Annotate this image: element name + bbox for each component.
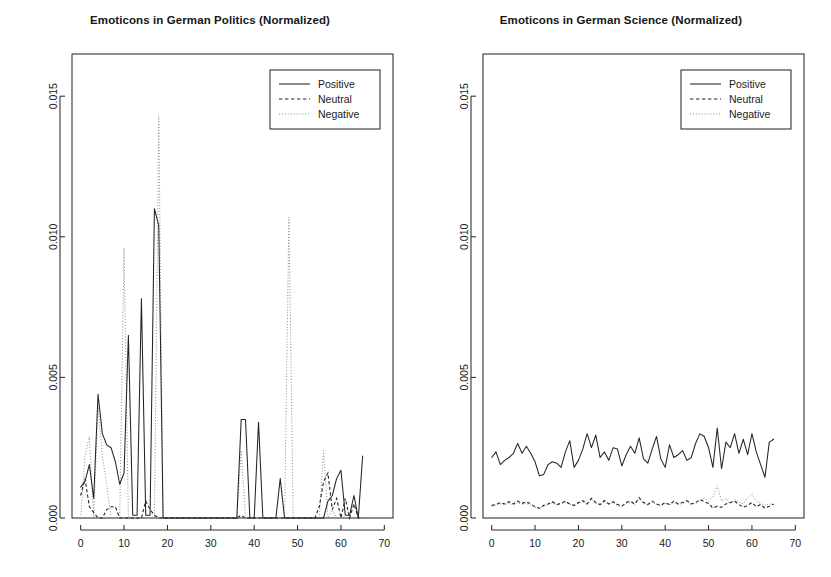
- x-axis-tick-label: 40: [248, 537, 260, 549]
- series-line-positive: [492, 428, 774, 477]
- plot-science: 0102030405060700.0000.0050.0100.015Posit…: [411, 0, 831, 577]
- x-axis-tick-label: 0: [78, 537, 84, 549]
- series-line-neutral: [81, 473, 363, 518]
- x-axis-tick-label: 70: [378, 537, 390, 549]
- series-line-negative: [492, 486, 774, 509]
- x-axis-tick-label: 20: [573, 537, 585, 549]
- x-axis-tick-label: 30: [205, 537, 217, 549]
- x-axis-tick-label: 70: [789, 537, 801, 549]
- legend-label-positive: Positive: [729, 78, 766, 90]
- chart-panel-politics: Emoticons in German Politics (Normalized…: [0, 0, 420, 577]
- x-axis-tick-label: 30: [616, 537, 628, 549]
- x-axis-tick-label: 50: [703, 537, 715, 549]
- y-axis-tick-label: 0.010: [47, 223, 59, 249]
- y-axis-tick-label: 0.015: [47, 83, 59, 109]
- legend-label-negative: Negative: [729, 108, 771, 120]
- series-line-neutral: [492, 498, 774, 508]
- x-axis-tick-label: 60: [746, 537, 758, 549]
- x-axis-tick-label: 10: [118, 537, 130, 549]
- legend-label-neutral: Neutral: [318, 93, 352, 105]
- x-axis-tick-label: 20: [162, 537, 174, 549]
- x-axis-tick-label: 60: [335, 537, 347, 549]
- y-axis-tick-label: 0.005: [458, 364, 470, 390]
- y-axis-tick-label: 0.015: [458, 83, 470, 109]
- x-axis-tick-label: 40: [659, 537, 671, 549]
- legend-label-neutral: Neutral: [729, 93, 763, 105]
- y-axis-tick-label: 0.005: [47, 364, 59, 390]
- y-axis-tick-label: 0.000: [458, 505, 470, 531]
- legend-label-negative: Negative: [318, 108, 360, 120]
- legend-label-positive: Positive: [318, 78, 355, 90]
- x-axis-tick-label: 50: [292, 537, 304, 549]
- series-line-negative: [81, 116, 363, 518]
- series-line-positive: [81, 209, 363, 518]
- y-axis-tick-label: 0.010: [458, 223, 470, 249]
- x-axis-tick-label: 0: [489, 537, 495, 549]
- figure-canvas: Emoticons in German Politics (Normalized…: [0, 0, 831, 577]
- x-axis-tick-label: 10: [529, 537, 541, 549]
- y-axis-tick-label: 0.000: [47, 505, 59, 531]
- chart-panel-science: Emoticons in German Science (Normalized)…: [411, 0, 831, 577]
- plot-politics: 0102030405060700.0000.0050.0100.015Posit…: [0, 0, 420, 577]
